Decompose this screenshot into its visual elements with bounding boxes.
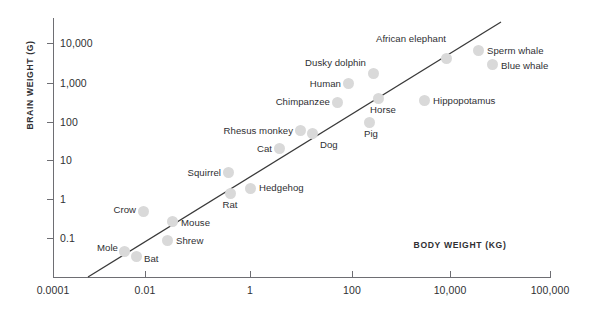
x-tick-mark — [450, 271, 451, 277]
data-point-pig — [364, 117, 375, 128]
data-point-mole — [119, 246, 130, 257]
data-point-dog — [307, 128, 318, 139]
data-point-bat — [131, 251, 142, 262]
data-point-chimpanzee — [332, 97, 343, 108]
point-label-blue-whale: Blue whale — [501, 60, 548, 71]
x-tick-label: 0.01 — [135, 284, 156, 296]
data-point-horse — [373, 93, 384, 104]
point-label-dusky-dolphin: Dusky dolphin — [305, 57, 366, 68]
brain-vs-body-weight-scatter-chart: BRAIN WEIGHT (G) BODY WEIGHT (KG) 10,000… — [0, 0, 593, 314]
y-tick-label: 1,000 — [60, 77, 87, 89]
y-tick-mark — [47, 83, 53, 84]
data-point-mouse — [167, 216, 178, 227]
data-point-hippopotamus — [419, 95, 430, 106]
point-label-squirrel: Squirrel — [188, 167, 221, 178]
point-label-sperm-whale: Sperm whale — [487, 45, 544, 56]
point-label-mole: Mole — [97, 242, 118, 253]
point-label-rat: Rat — [222, 199, 237, 210]
point-label-pig: Pig — [364, 128, 378, 139]
data-point-human — [343, 78, 354, 89]
y-tick-label: 1 — [60, 193, 66, 205]
data-point-blue-whale — [487, 59, 498, 70]
x-tick-label: 1 — [247, 284, 253, 296]
data-point-rhesus-monkey — [295, 125, 306, 136]
point-label-hedgehog: Hedgehog — [259, 182, 304, 193]
y-tick-label: 100 — [60, 116, 78, 128]
y-tick-label: 10 — [60, 154, 72, 166]
data-point-crow — [138, 206, 149, 217]
x-tick-mark — [145, 271, 146, 277]
point-label-crow: Crow — [113, 204, 136, 215]
data-point-african-elephant — [441, 53, 452, 64]
x-tick-mark — [352, 271, 353, 277]
point-label-mouse: Mouse — [181, 217, 210, 228]
y-tick-mark — [47, 238, 53, 239]
data-point-rat — [225, 188, 236, 199]
x-tick-mark — [250, 271, 251, 277]
point-label-african-elephant: African elephant — [376, 33, 446, 44]
x-tick-mark — [53, 271, 54, 277]
data-point-squirrel — [223, 167, 234, 178]
point-label-dog: Dog — [320, 139, 338, 150]
point-label-shrew: Shrew — [176, 235, 203, 246]
y-axis-title: BRAIN WEIGHT (G) — [25, 25, 35, 145]
point-label-cat: Cat — [257, 143, 272, 154]
y-tick-mark — [47, 199, 53, 200]
y-tick-mark — [47, 160, 53, 161]
x-tick-label: 10,000 — [434, 284, 467, 296]
x-tick-label: 100 — [343, 284, 361, 296]
x-tick-label: 0.0001 — [37, 284, 70, 296]
point-label-horse: Horse — [370, 104, 396, 115]
data-point-cat — [274, 143, 285, 154]
x-axis-title: BODY WEIGHT (KG) — [414, 240, 507, 250]
x-tick-mark — [550, 271, 551, 277]
point-label-bat: Bat — [144, 253, 159, 264]
data-point-hedgehog — [245, 183, 256, 194]
point-label-rhesus-monkey: Rhesus monkey — [224, 125, 293, 136]
point-label-chimpanzee: Chimpanzee — [276, 96, 330, 107]
y-axis-line — [53, 18, 54, 277]
data-point-shrew — [162, 235, 173, 246]
y-tick-label: 0.1 — [60, 232, 75, 244]
point-label-hippopotamus: Hippopotamus — [433, 95, 495, 106]
data-point-sperm-whale — [473, 45, 484, 56]
point-label-human: Human — [310, 78, 341, 89]
data-point-dusky-dolphin — [368, 68, 379, 79]
y-tick-mark — [47, 43, 53, 44]
y-tick-mark — [47, 122, 53, 123]
y-tick-label: 10,000 — [60, 37, 93, 49]
x-axis-line — [53, 277, 551, 278]
x-tick-label: 100,000 — [531, 284, 570, 296]
